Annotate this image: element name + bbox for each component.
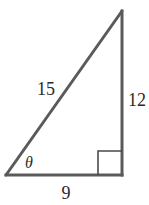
hypotenuse-label: 15 — [37, 80, 55, 98]
right-angle-marker — [98, 151, 122, 175]
vertical-leg-label: 12 — [128, 91, 146, 109]
triangle-svg — [0, 0, 149, 205]
angle-theta-label: θ — [25, 155, 33, 171]
horizontal-leg-label: 9 — [62, 184, 71, 202]
right-triangle-diagram: 15 12 9 θ — [0, 0, 149, 205]
